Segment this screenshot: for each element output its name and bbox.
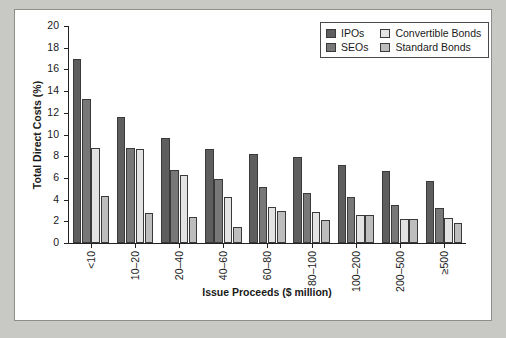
x-axis-tick [444,243,445,248]
bar [435,208,444,243]
legend-label-seos: SEOs [341,41,368,53]
legend-swatch-convertible-bonds [380,29,390,38]
bar [312,212,321,243]
bar [233,227,242,243]
bar [91,148,100,243]
x-axis-tick [91,243,92,248]
bar [161,138,170,243]
x-axis-tick-label: <10 [85,251,97,269]
chart-figure: Total Direct Costs (%) 02468101214161820… [14,9,492,321]
x-axis-tick [400,243,401,248]
bar-group: 40–60 [201,26,245,243]
y-axis-tick-label: 16 [47,62,59,74]
bar-groups: <1010–2020–4040–6060–8080–100100–200200–… [69,26,466,243]
legend-item-ipos: IPOs [326,27,368,39]
y-axis-tick-label: 6 [53,171,59,183]
x-axis-tick-label: 60–80 [261,251,273,280]
bar [73,59,82,243]
legend-label-ipos: IPOs [341,27,364,39]
bar [214,179,223,243]
bar [224,197,233,243]
bar [170,170,179,243]
bar-group: 100–200 [334,26,378,243]
bar [338,165,347,243]
x-axis-tick-label: 20–40 [173,251,185,280]
bar [321,220,330,243]
x-axis-tick [312,243,313,248]
y-axis-tick-label: 4 [53,193,59,205]
bar-group: 200–500 [378,26,422,243]
y-axis-tick-label: 8 [53,149,59,161]
y-axis-tick-label: 2 [53,214,59,226]
bar-group: 80–100 [290,26,334,243]
legend-label-convertible-bonds: Convertible Bonds [395,27,481,39]
x-axis-tick [267,243,268,248]
x-axis-tick [135,243,136,248]
legend-swatch-ipos [326,29,336,38]
x-axis-tick [223,243,224,248]
bar [205,149,214,243]
bar-group: 20–40 [157,26,201,243]
bar-group: 60–80 [245,26,289,243]
legend-item-standard-bonds: Standard Bonds [380,41,481,53]
y-axis-tick-label: 0 [53,236,59,248]
chart-legend: IPOs Convertible Bonds SEOs Standard Bon… [320,22,489,58]
bar [444,218,453,243]
plot-area: 02468101214161820 <1010–2020–4040–6060–8… [68,26,466,244]
bar [189,217,198,243]
bar [426,181,435,243]
bar [249,154,258,243]
bar [391,205,400,243]
bar [303,193,312,243]
bar [347,197,356,243]
legend-swatch-seos [326,43,336,52]
y-axis-tick-label: 10 [47,128,59,140]
bar [136,149,145,243]
x-axis-tick [179,243,180,248]
x-axis-tick-label: 10–20 [129,251,141,280]
x-axis-tick-label: 40–60 [217,251,229,280]
bar [259,187,268,243]
x-axis-tick-label: 80–100 [306,251,318,286]
y-axis-tick-label: 14 [47,84,59,96]
y-axis-tick-label: 18 [47,41,59,53]
bar [382,171,391,243]
bar [145,213,154,243]
bar [409,219,418,243]
legend-item-seos: SEOs [326,41,368,53]
bar [400,219,409,243]
bar [356,215,365,243]
y-axis-label: Total Direct Costs (%) [31,81,43,189]
bar [101,196,110,243]
bar [180,175,189,243]
bar-group: 10–20 [113,26,157,243]
legend-swatch-standard-bonds [380,43,390,52]
bar [82,99,91,243]
bar [268,207,277,243]
x-axis-tick [356,243,357,248]
legend-item-convertible-bonds: Convertible Bonds [380,27,481,39]
bar-group: ≥500 [422,26,466,243]
bar [293,157,302,243]
y-axis-tick-label: 20 [47,19,59,31]
x-axis-label: Issue Proceeds ($ million) [68,286,466,298]
y-axis-tick-label: 12 [47,106,59,118]
bar [365,215,374,243]
bar-group: <10 [69,26,113,243]
x-axis-tick-label: ≥500 [438,251,450,274]
y-axis-tick: 0 [64,243,69,244]
bar [277,211,286,243]
bar [117,117,126,243]
legend-label-standard-bonds: Standard Bonds [395,41,470,53]
bar [126,148,135,243]
bar [454,223,463,243]
